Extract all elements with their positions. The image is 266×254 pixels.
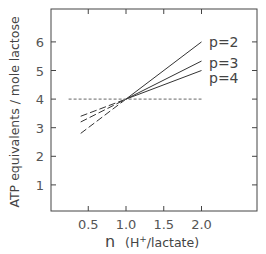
y-axis-label: ATP equivalents / mole lactose xyxy=(7,16,22,207)
chart: 0.51.01.52.0 123456 p=2p=3p=4 n (H+/lact… xyxy=(0,0,266,254)
y-tick-label: 5 xyxy=(36,64,44,79)
x-tick-label: 0.5 xyxy=(78,217,99,232)
x-tick-label: 1.5 xyxy=(153,217,174,232)
series-line-p=3 xyxy=(126,61,202,99)
y-tick-label: 2 xyxy=(36,149,44,164)
series-lines xyxy=(69,42,202,134)
x-tick-label: 2.0 xyxy=(191,217,212,232)
series-line-p=4 xyxy=(126,71,202,100)
series-labels: p=2p=3p=4 xyxy=(209,34,239,86)
series-line-p=4-dashed xyxy=(81,99,126,116)
series-label-p=4: p=4 xyxy=(209,70,239,86)
x-tick-label: 1.0 xyxy=(116,217,137,232)
series-line-p=2-dashed xyxy=(81,99,126,133)
y-tick-label: 1 xyxy=(36,178,44,193)
series-label-p=3: p=3 xyxy=(209,55,239,71)
y-tick-label: 3 xyxy=(36,121,44,136)
y-tick-label: 6 xyxy=(36,35,44,50)
series-label-p=2: p=2 xyxy=(209,34,239,50)
y-tick-labels: 123456 xyxy=(36,35,44,193)
x-tick-labels: 0.51.01.52.0 xyxy=(78,217,212,232)
series-line-p=3-dashed xyxy=(81,99,126,122)
y-tick-label: 4 xyxy=(36,92,44,107)
x-axis-label: n (H+/lactate) xyxy=(105,232,199,251)
series-line-p=2 xyxy=(126,42,202,99)
x-axis-symbol: n xyxy=(105,232,115,251)
